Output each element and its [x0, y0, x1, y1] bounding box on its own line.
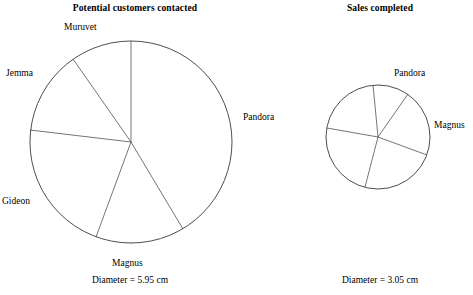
- figure-canvas: Potential customers contacted Sales comp…: [0, 0, 473, 295]
- pie-charts-svg: [0, 0, 473, 295]
- slice-label-gideon: Gideon: [2, 196, 30, 206]
- caption-diameter-left: Diameter = 5.95 cm: [30, 275, 230, 285]
- slice-label-muruvet: Muruvet: [64, 22, 97, 32]
- pie-chart-potential-customers: [30, 41, 232, 243]
- slice-label-pandora-left: Pandora: [243, 112, 274, 122]
- slice-label-pandora-right: Pandora: [394, 68, 425, 78]
- pie-chart-sales-completed: [326, 85, 430, 189]
- slice-label-jemma: Jemma: [6, 68, 33, 78]
- slice-label-magnus-left: Magnus: [112, 258, 143, 268]
- caption-diameter-right: Diameter = 3.05 cm: [300, 275, 460, 285]
- slice-label-magnus-right: Magnus: [434, 120, 465, 130]
